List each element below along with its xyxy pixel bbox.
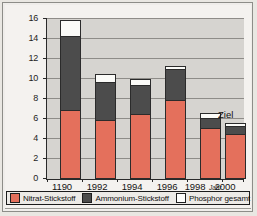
bar-segment-ammonium <box>61 37 80 111</box>
bar-segment-ammonium <box>131 86 150 115</box>
bar-segment-ammonium <box>201 119 220 129</box>
legend-swatch-phosphor-icon <box>176 193 186 203</box>
bar-segment-nitrat <box>61 111 80 178</box>
chart-screenshot: 1000 t pro Jahr 16 14 12 10 8 6 4 2 0 <box>0 0 257 216</box>
bar-segment-ammonium <box>96 83 115 121</box>
bar-1994 <box>130 79 151 179</box>
legend-label-ammonium: Ammonium-Stickstoff <box>95 194 169 203</box>
legend-label-nitrat: Nitrat-Stickstoff <box>23 194 75 203</box>
y-tick-label-16: 16 <box>24 14 38 23</box>
y-tick-label-4: 4 <box>24 134 38 143</box>
bar-segment-nitrat <box>166 101 185 178</box>
bottom-divider <box>5 208 251 209</box>
bar-1998 <box>200 113 221 179</box>
y-tick-label-8: 8 <box>24 94 38 103</box>
bar-segment-nitrat <box>131 115 150 178</box>
bar-1992 <box>95 74 116 179</box>
legend-item-phosphor: Phosphor gesamt <box>176 193 250 203</box>
y-tick-label-0: 0 <box>24 174 38 183</box>
bar-segment-ammonium <box>166 70 185 101</box>
gridline-16 <box>47 18 244 19</box>
y-tick-label-2: 2 <box>24 154 38 163</box>
y-tick-label-6: 6 <box>24 114 38 123</box>
bar-segment-nitrat <box>96 121 115 178</box>
plot-area <box>46 18 244 180</box>
legend-item-nitrat: Nitrat-Stickstoff <box>10 193 75 203</box>
bar-segment-nitrat <box>201 129 220 178</box>
bar-segment-phosphor <box>96 75 115 83</box>
chart-container: 1000 t pro Jahr 16 14 12 10 8 6 4 2 0 <box>6 5 250 190</box>
y-tick-label-12: 12 <box>24 54 38 63</box>
bar-segment-nitrat <box>226 135 245 178</box>
chart-legend: Nitrat-Stickstoff Ammonium-Stickstoff Ph… <box>6 191 250 205</box>
legend-label-phosphor: Phosphor gesamt <box>189 194 250 203</box>
bar-1996 <box>165 66 186 179</box>
bar-segment-phosphor <box>61 21 80 37</box>
legend-swatch-ammonium-icon <box>82 193 92 203</box>
y-tick-label-14: 14 <box>24 34 38 43</box>
bar-2000 <box>225 123 246 179</box>
bar-segment-ammonium <box>226 127 245 135</box>
legend-swatch-nitrat-icon <box>10 193 20 203</box>
annotation-ziel: Ziel <box>218 109 233 120</box>
y-tick-label-10: 10 <box>24 74 38 83</box>
legend-item-ammonium: Ammonium-Stickstoff <box>82 193 169 203</box>
bar-1190 <box>60 20 81 179</box>
